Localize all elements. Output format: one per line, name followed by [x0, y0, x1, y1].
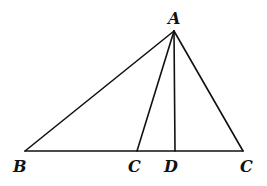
segment-ad-altitude [174, 31, 175, 151]
geometry-diagram: A B C D C [0, 0, 267, 186]
label-b: B [12, 157, 27, 176]
label-a: A [166, 9, 180, 28]
segment-ab [25, 31, 174, 151]
segment-ac-right [174, 31, 243, 151]
segment-ac-left [137, 31, 174, 151]
diagram-svg: A B C D C [0, 0, 267, 186]
label-d: D [163, 157, 178, 176]
label-c-right: C [240, 157, 253, 176]
label-c-left: C [128, 157, 141, 176]
